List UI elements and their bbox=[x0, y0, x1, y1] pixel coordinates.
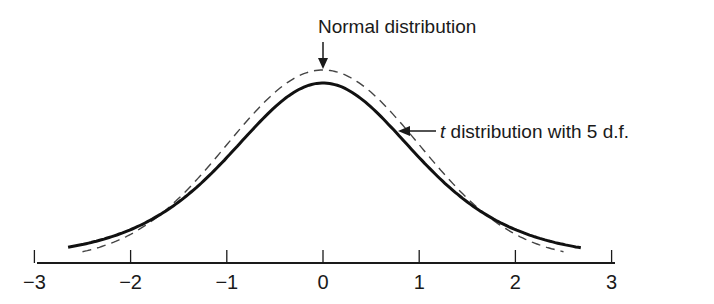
arrow-down-icon bbox=[318, 42, 328, 69]
x-tick-label: 2 bbox=[510, 271, 521, 293]
x-axis: −3−2−10123 bbox=[23, 250, 617, 293]
x-tick-label: −2 bbox=[119, 271, 142, 293]
t-distribution-curve bbox=[68, 83, 581, 248]
x-tick-label: 1 bbox=[414, 271, 425, 293]
t-distribution-label: t distribution with 5 d.f. bbox=[440, 121, 629, 142]
x-tick-label: 3 bbox=[606, 271, 617, 293]
x-tick-label: 0 bbox=[317, 271, 328, 293]
t-label-rest: distribution with 5 d.f. bbox=[445, 121, 629, 142]
normal-distribution-curve bbox=[83, 70, 564, 252]
x-tick-label: −3 bbox=[23, 271, 46, 293]
x-tick-label: −1 bbox=[215, 271, 238, 293]
distribution-chart: −3−2−10123 Normal distribution t distrib… bbox=[0, 0, 714, 304]
normal-distribution-label: Normal distribution bbox=[318, 16, 476, 37]
arrow-left-icon bbox=[398, 126, 436, 136]
